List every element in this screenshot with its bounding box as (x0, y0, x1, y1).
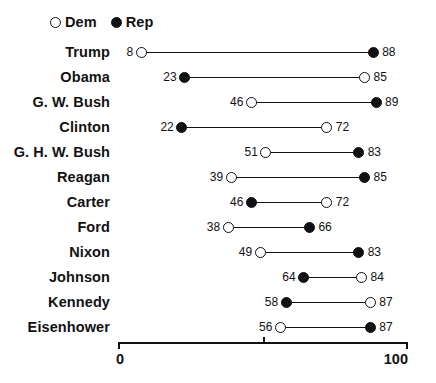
filled-circle-icon (111, 17, 122, 28)
legend-label-rep: Rep (126, 15, 154, 30)
value-label: 49 (239, 240, 254, 265)
value-label: 51 (245, 140, 260, 165)
value-label: 85 (371, 65, 387, 90)
row-plot: 4983 (0, 240, 436, 265)
value-label: 72 (333, 190, 349, 215)
row-plot: 4689 (0, 90, 436, 115)
connector-line (251, 102, 376, 104)
chart-row: Ford3866 (0, 215, 436, 240)
filled-circle-icon (353, 147, 364, 158)
value-label: 46 (230, 90, 245, 115)
filled-circle-icon (246, 197, 257, 208)
open-circle-icon (136, 47, 147, 58)
row-plot: 4672 (0, 190, 436, 215)
open-circle-icon (321, 122, 332, 133)
open-circle-icon (260, 147, 271, 158)
connector-line (266, 152, 359, 154)
open-circle-icon (226, 172, 237, 183)
filled-circle-icon (298, 272, 309, 283)
filled-circle-icon (368, 47, 379, 58)
open-circle-icon (246, 97, 257, 108)
open-circle-icon (356, 272, 367, 283)
chart-row: Obama2385 (0, 65, 436, 90)
row-plot: 5887 (0, 290, 436, 315)
row-plot: 3985 (0, 165, 436, 190)
axis-tick-label-min: 0 (116, 351, 124, 367)
value-label: 72 (333, 115, 349, 140)
axis-tick-label-max: 100 (384, 351, 408, 367)
value-label: 8 (127, 40, 136, 65)
value-label: 85 (371, 165, 387, 190)
chart-legend: Dem Rep (50, 10, 153, 34)
filled-circle-icon (179, 72, 190, 83)
value-label: 58 (265, 290, 280, 315)
connector-line (280, 327, 370, 329)
axis-tick-50 (263, 337, 265, 343)
connector-line (231, 177, 364, 179)
row-plot: 2272 (0, 115, 436, 140)
chart-row: Clinton2272 (0, 115, 436, 140)
chart-row: Reagan3985 (0, 165, 436, 190)
value-label: 38 (207, 215, 222, 240)
connector-line (185, 77, 365, 79)
value-label: 87 (376, 290, 392, 315)
chart-row: Trump888 (0, 40, 436, 65)
open-circle-icon (275, 322, 286, 333)
value-label: 89 (382, 90, 398, 115)
legend-label-dem: Dem (65, 15, 97, 30)
filled-circle-icon (365, 322, 376, 333)
legend-item-dem: Dem (50, 15, 97, 30)
open-circle-icon (359, 72, 370, 83)
row-plot: 3866 (0, 215, 436, 240)
value-label: 83 (365, 240, 381, 265)
axis-tick-100 (406, 342, 408, 349)
value-label: 88 (379, 40, 395, 65)
dumbbell-chart: Dem Rep Trump888Obama2385G. W. Bush4689C… (0, 0, 436, 383)
filled-circle-icon (371, 97, 382, 108)
open-circle-icon (365, 297, 376, 308)
row-plot: 888 (0, 40, 436, 65)
value-label: 56 (259, 315, 274, 340)
chart-row: Johnson6484 (0, 265, 436, 290)
filled-circle-icon (281, 297, 292, 308)
chart-row: Eisenhower5687 (0, 315, 436, 340)
chart-row: Carter4672 (0, 190, 436, 215)
value-label: 23 (163, 65, 178, 90)
value-label: 66 (315, 215, 331, 240)
value-label: 83 (365, 140, 381, 165)
chart-row: Nixon4983 (0, 240, 436, 265)
connector-line (228, 227, 309, 229)
value-label: 84 (368, 265, 384, 290)
x-axis: 0 100 (0, 342, 436, 383)
open-circle-icon (223, 222, 234, 233)
open-circle-icon (50, 17, 61, 28)
value-label: 87 (376, 315, 392, 340)
connector-line (304, 277, 362, 279)
chart-row: Kennedy5887 (0, 290, 436, 315)
connector-line (141, 52, 373, 54)
chart-row: G. H. W. Bush5183 (0, 140, 436, 165)
open-circle-icon (321, 197, 332, 208)
row-plot: 2385 (0, 65, 436, 90)
legend-item-rep: Rep (111, 15, 154, 30)
chart-rows: Trump888Obama2385G. W. Bush4689Clinton22… (0, 40, 436, 340)
value-label: 64 (282, 265, 297, 290)
filled-circle-icon (176, 122, 187, 133)
value-label: 22 (160, 115, 175, 140)
chart-row: G. W. Bush4689 (0, 90, 436, 115)
filled-circle-icon (304, 222, 315, 233)
connector-line (251, 202, 326, 204)
filled-circle-icon (353, 247, 364, 258)
row-plot: 6484 (0, 265, 436, 290)
value-label: 39 (210, 165, 225, 190)
connector-line (260, 252, 359, 254)
filled-circle-icon (359, 172, 370, 183)
connector-line (286, 302, 370, 304)
row-plot: 5687 (0, 315, 436, 340)
value-label: 46 (230, 190, 245, 215)
connector-line (182, 127, 327, 129)
axis-tick-0 (118, 342, 120, 349)
open-circle-icon (255, 247, 266, 258)
row-plot: 5183 (0, 140, 436, 165)
